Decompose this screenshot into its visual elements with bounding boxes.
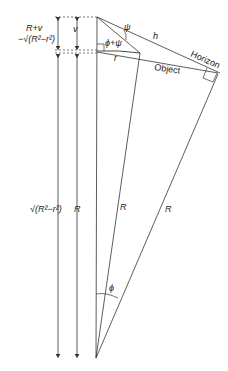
label-phi: ϕ — [109, 283, 114, 293]
radius-right — [96, 74, 218, 358]
right-angle-mark-center — [97, 44, 104, 51]
right-angle-mark-horizon — [203, 68, 217, 82]
phi-arc — [96, 294, 118, 299]
label-psi: ψ — [124, 22, 131, 32]
center-vertical-line — [96, 17, 97, 358]
label-minus-sqrt: −√(R²−r²) — [18, 34, 55, 44]
label-R-plus-v: R+v — [26, 23, 43, 33]
label-object: Object — [154, 62, 182, 76]
label-r: r — [114, 53, 118, 63]
label-R-vertical: R — [74, 204, 81, 214]
label-h: h — [153, 31, 158, 41]
label-R-right: R — [165, 204, 172, 214]
label-horizon: Horizon — [189, 49, 221, 71]
label-v: v — [73, 24, 78, 34]
horizon-geometry-diagram: R+v −√(R²−r²) v ψ ϕ+ψ h r Object Horizon… — [0, 0, 228, 371]
label-R-middle: R — [120, 202, 127, 212]
surface-arc — [97, 51, 140, 53]
radius-middle — [96, 53, 140, 358]
label-phi-plus-psi: ϕ+ψ — [105, 38, 122, 48]
label-sqrt-bottom: √(R²−r²) — [30, 204, 62, 214]
